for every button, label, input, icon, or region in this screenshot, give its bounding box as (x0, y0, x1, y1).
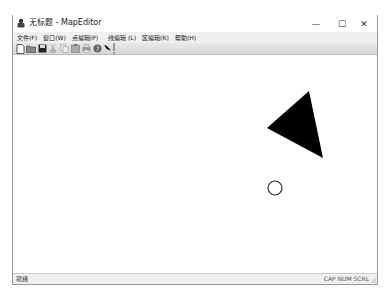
keyboard-indicators: CAP NUM SCRL (324, 274, 369, 284)
pointer-help-icon (103, 43, 117, 55)
menu-region-edit[interactable]: 区编辑(R) (142, 32, 169, 43)
menu-point-edit[interactable]: 点编辑(P) (72, 32, 98, 43)
save-icon (38, 44, 47, 53)
new-file-button[interactable] (15, 44, 25, 54)
menu-window[interactable]: 窗口(W) (43, 32, 66, 43)
minimize-button[interactable]: — (305, 15, 327, 32)
map-canvas[interactable] (13, 56, 377, 274)
open-folder-icon (26, 44, 36, 53)
new-file-icon (16, 44, 25, 54)
copy-icon (60, 44, 69, 53)
menu-file[interactable]: 文件(F) (17, 32, 37, 43)
close-button[interactable]: ✕ (353, 15, 375, 32)
status-text: 就绪 (16, 274, 28, 284)
cut-icon (49, 44, 57, 53)
circle-point[interactable] (268, 181, 282, 195)
toolbar: ? (13, 43, 377, 55)
resize-grip-icon[interactable] (370, 277, 376, 283)
copy-button[interactable] (59, 44, 69, 54)
paste-icon (71, 44, 80, 53)
print-button[interactable] (81, 44, 91, 54)
map-drawing (13, 56, 379, 274)
window-title: 无标题 - MapEditor (29, 17, 102, 29)
triangle-region[interactable] (267, 91, 323, 158)
svg-text:?: ? (95, 45, 98, 52)
paste-button[interactable] (70, 44, 80, 54)
print-icon (82, 44, 91, 53)
cut-button[interactable] (48, 44, 58, 54)
menu-help[interactable]: 帮助(H) (175, 32, 196, 43)
app-icon (16, 18, 26, 28)
app-window: 无标题 - MapEditor — ☐ ✕ 文件(F) 窗口(W) 点编辑(P)… (12, 15, 378, 285)
menu-bar: 文件(F) 窗口(W) 点编辑(P) 线编辑 (L) 区编辑(R) 帮助(H) (13, 32, 377, 43)
context-help-button[interactable] (103, 44, 117, 54)
save-button[interactable] (37, 44, 47, 54)
about-button[interactable]: ? (92, 44, 102, 54)
open-button[interactable] (26, 44, 36, 54)
maximize-button[interactable]: ☐ (331, 15, 353, 32)
title-bar[interactable]: 无标题 - MapEditor — ☐ ✕ (13, 15, 377, 32)
status-bar: 就绪 CAP NUM SCRL (13, 273, 377, 284)
about-icon: ? (93, 44, 102, 53)
menu-line-edit[interactable]: 线编辑 (L) (108, 32, 136, 43)
